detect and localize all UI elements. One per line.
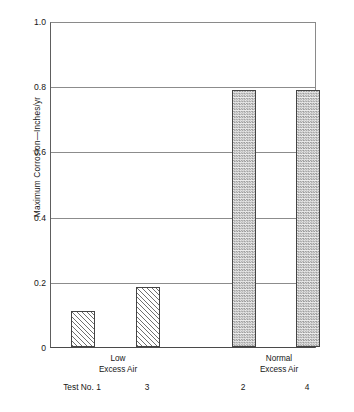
group-label-low-line1: Low — [110, 354, 125, 363]
test-label-4: 4 — [247, 382, 354, 392]
y-tick-label-2: 0.8 — [6, 82, 46, 92]
group-label-low-line2: Excess Air — [99, 365, 137, 374]
group-label-normal-line1: Normal — [266, 354, 292, 363]
bar-chart-figure: Maximum Corrosion—Inches/yr 1.0 0.8 0.6 … — [0, 0, 354, 412]
gridline-0-6 — [51, 152, 315, 153]
y-tick-label-5: 0.2 — [6, 278, 46, 288]
group-label-normal-line2: Excess Air — [260, 365, 298, 374]
gridline-0-4 — [51, 218, 315, 219]
gridline-0-2 — [51, 283, 315, 284]
y-tick-label-6: 0 — [6, 343, 46, 353]
y-tick-label-3: 0.6 — [6, 147, 46, 157]
bar-test-2 — [232, 90, 256, 348]
plot-area — [50, 22, 316, 348]
bar-test-4 — [296, 90, 320, 348]
group-label-low-excess-air: Low Excess Air — [48, 354, 188, 375]
bar-test-1 — [71, 311, 95, 347]
y-tick-label-1: 1.0 — [6, 17, 46, 27]
bar-test-3 — [136, 287, 160, 347]
group-label-normal-excess-air: Normal Excess Air — [209, 354, 349, 375]
gridline-0-8 — [51, 87, 315, 88]
y-tick-label-4: 0.4 — [6, 213, 46, 223]
